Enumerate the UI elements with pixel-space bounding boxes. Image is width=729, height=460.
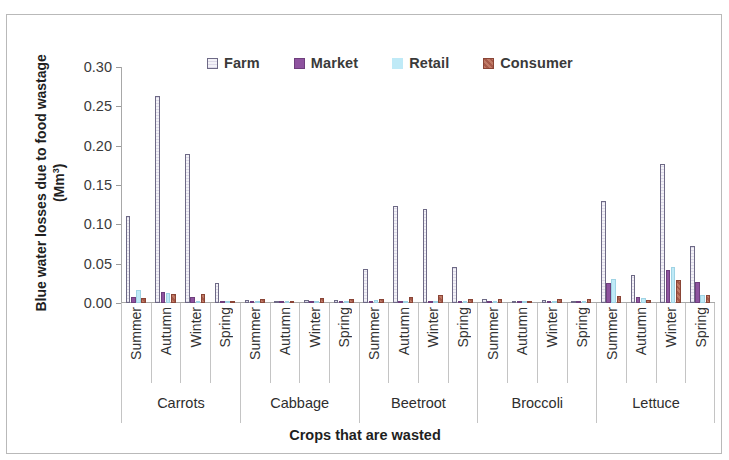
bar-farm[interactable]: [393, 206, 398, 303]
bar-group-lettuce: [596, 67, 715, 303]
bar-consumer[interactable]: [706, 295, 711, 303]
crop-label: Beetroot: [391, 395, 446, 411]
season-label-wrap: Autumn: [389, 307, 418, 377]
crop-label-cell-beetroot: Beetroot: [359, 383, 478, 423]
y-tick-label: 0.30: [84, 59, 112, 75]
crop-label-cell-broccoli: Broccoli: [477, 383, 596, 423]
bar-cluster-beetroot-summer: [359, 67, 389, 303]
bar-cluster-carrots-spring: [210, 67, 240, 303]
season-label-cell: Autumn: [270, 303, 300, 383]
bar-cluster-beetroot-autumn: [388, 67, 418, 303]
bar-farm[interactable]: [631, 275, 636, 303]
season-label: Spring: [217, 307, 233, 347]
season-label: Winter: [425, 307, 441, 347]
season-label-cell: Summer: [359, 303, 389, 383]
y-axis-title-unit: (Mm3): [51, 164, 67, 202]
plot-area: 0.000.050.100.150.200.250.30: [121, 67, 715, 303]
season-label: Spring: [455, 307, 471, 347]
season-label-wrap: Winter: [419, 307, 448, 377]
bar-market[interactable]: [666, 270, 671, 303]
crop-label: Carrots: [157, 395, 205, 411]
season-label-cell: Winter: [299, 303, 329, 383]
bar-consumer[interactable]: [676, 280, 681, 303]
bar-farm[interactable]: [185, 154, 190, 303]
y-axis-title: Blue water losses due to food wastage (M…: [33, 43, 69, 323]
bar-farm[interactable]: [215, 283, 220, 303]
crop-label-cell-cabbage: Cabbage: [240, 383, 359, 423]
bar-farm[interactable]: [155, 96, 160, 303]
season-label-cell: Spring: [685, 303, 715, 383]
season-label-cell: Summer: [477, 303, 507, 383]
season-label-wrap: Spring: [686, 307, 715, 377]
bar-cluster-carrots-autumn: [151, 67, 181, 303]
bar-market[interactable]: [161, 292, 166, 303]
bar-farm[interactable]: [660, 164, 665, 303]
season-label: Summer: [366, 307, 382, 360]
bar-consumer[interactable]: [438, 295, 443, 303]
season-label-wrap: Summer: [122, 307, 151, 377]
season-label-cell: Autumn: [626, 303, 656, 383]
season-label-wrap: Spring: [330, 307, 359, 377]
season-label: Autumn: [633, 307, 649, 355]
bar-cluster-lettuce-summer: [596, 67, 626, 303]
season-label-wrap: Winter: [300, 307, 329, 377]
bar-farm[interactable]: [126, 216, 131, 303]
bar-farm[interactable]: [690, 246, 695, 303]
bar-retail[interactable]: [136, 290, 141, 303]
season-label: Summer: [485, 307, 501, 360]
y-tick-label: 0.15: [84, 177, 112, 193]
bar-farm[interactable]: [452, 267, 457, 303]
season-label: Spring: [693, 307, 709, 347]
season-label: Summer: [247, 307, 263, 360]
season-label-cell: Autumn: [151, 303, 181, 383]
season-label: Winter: [188, 307, 204, 347]
bar-consumer[interactable]: [201, 294, 206, 303]
bar-group-broccoli: [477, 67, 596, 303]
bar-farm[interactable]: [601, 201, 606, 303]
bar-consumer[interactable]: [617, 296, 622, 303]
bar-cluster-carrots-winter: [180, 67, 210, 303]
y-tick-label: 0.05: [84, 256, 112, 272]
season-label: Autumn: [277, 307, 293, 355]
bar-cluster-broccoli-autumn: [507, 67, 537, 303]
season-label: Spring: [574, 307, 590, 347]
y-tick-label: 0.25: [84, 98, 112, 114]
bar-cluster-cabbage-autumn: [269, 67, 299, 303]
bar-group-beetroot: [359, 67, 478, 303]
season-label-cell: Spring: [329, 303, 359, 383]
season-label: Summer: [128, 307, 144, 360]
season-label-cell: Spring: [567, 303, 597, 383]
bar-market[interactable]: [606, 283, 611, 303]
bar-cluster-cabbage-winter: [299, 67, 329, 303]
bar-retail[interactable]: [611, 279, 616, 303]
bar-cluster-cabbage-summer: [240, 67, 270, 303]
bar-retail[interactable]: [700, 295, 705, 303]
season-label: Spring: [336, 307, 352, 347]
bar-market[interactable]: [695, 282, 700, 303]
crop-label: Cabbage: [270, 395, 329, 411]
bar-group-cabbage: [240, 67, 359, 303]
bars-canvas: 0.000.050.100.150.200.250.30: [121, 67, 715, 303]
season-axis-band: SummerAutumnWinterSpringSummerAutumnWint…: [121, 303, 715, 383]
y-tick-label: 0.10: [84, 216, 112, 232]
bar-farm[interactable]: [363, 269, 368, 303]
crop-label-cell-lettuce: Lettuce: [596, 383, 715, 423]
season-label-wrap: Autumn: [508, 307, 537, 377]
season-label-wrap: Spring: [449, 307, 478, 377]
bar-retail[interactable]: [671, 267, 676, 303]
bar-cluster-broccoli-summer: [477, 67, 507, 303]
y-tick-label: 0.00: [84, 295, 112, 311]
season-label-wrap: Winter: [181, 307, 210, 377]
bar-consumer[interactable]: [171, 294, 176, 303]
bar-farm[interactable]: [423, 209, 428, 303]
bar-retail[interactable]: [166, 293, 171, 303]
season-label-wrap: Summer: [478, 307, 507, 377]
season-label: Winter: [544, 307, 560, 347]
season-label-wrap: Summer: [241, 307, 270, 377]
season-label-wrap: Summer: [360, 307, 389, 377]
season-label-wrap: Winter: [657, 307, 686, 377]
bar-cluster-beetroot-winter: [418, 67, 448, 303]
season-label-cell: Winter: [418, 303, 448, 383]
bar-cluster-broccoli-winter: [537, 67, 567, 303]
season-label-wrap: Autumn: [627, 307, 656, 377]
